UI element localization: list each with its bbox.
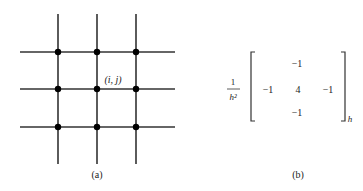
stencil-top: −1: [292, 58, 303, 69]
prefactor-denominator: h²: [229, 92, 236, 102]
caption-a: (a): [91, 169, 102, 180]
node-label-ij: (i, j): [104, 74, 121, 85]
stencil-center: 4: [296, 84, 301, 95]
stencil-right: −1: [323, 84, 334, 95]
stencil-bottom: −1: [292, 107, 303, 118]
prefactor-numerator: 1: [231, 77, 236, 87]
stencil-subscript: h: [348, 114, 353, 124]
caption-b: (b): [292, 169, 304, 180]
grid-diagram: [0, 0, 363, 191]
stencil-left: −1: [263, 84, 274, 95]
